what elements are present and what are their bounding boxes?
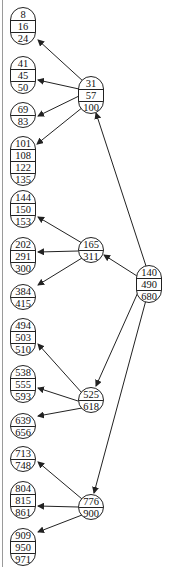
leaf-node-l6: 202291300 (10, 237, 36, 275)
edge-arrow-root-n1 (96, 113, 146, 266)
node-key: 41 (11, 58, 35, 69)
edge-arrow-n3-l8 (38, 344, 82, 393)
node-key: 618 (79, 400, 103, 412)
node-key: 140 (137, 267, 161, 278)
leaf-node-l9: 538555593 (10, 365, 36, 403)
node-key: 815 (11, 494, 35, 506)
edge-arrow-n3-l9 (38, 388, 78, 401)
node-key: 100 (79, 101, 103, 113)
node-key: 494 (11, 320, 35, 331)
edge-arrow-n3-l10 (38, 408, 82, 416)
edge-arrow-n2-l5 (38, 217, 82, 243)
node-key: 525 (79, 389, 103, 400)
node-key: 639 (11, 415, 35, 426)
node-key: 510 (11, 343, 35, 355)
node-key: 101 (11, 138, 35, 149)
node-key: 538 (11, 367, 35, 378)
edge-arrow-n2-l7 (38, 258, 82, 285)
node-key: 165 (79, 239, 103, 250)
node-key: 909 (11, 530, 35, 541)
leaf-node-l2: 414550 (10, 56, 36, 94)
node-key: 503 (11, 331, 35, 343)
leaf-node-l8: 494503510 (10, 318, 36, 356)
node-key: 748 (11, 459, 35, 471)
node-key: 24 (11, 32, 35, 44)
leaf-node-l1: 81624 (10, 7, 36, 45)
node-key: 108 (11, 149, 35, 161)
leaf-node-l7: 384415 (10, 284, 36, 310)
internal-node-n3: 525618 (78, 387, 104, 413)
node-key: 680 (137, 290, 161, 302)
edge-arrow-n4-l13 (38, 515, 82, 532)
node-key: 950 (11, 541, 35, 553)
node-key: 291 (11, 250, 35, 262)
internal-node-n4: 776900 (78, 494, 104, 520)
leaf-node-l10: 639656 (10, 413, 36, 439)
node-key: 8 (11, 9, 35, 20)
node-key: 31 (79, 78, 103, 89)
edge-arrow-n1-l4 (37, 107, 83, 144)
node-key: 144 (11, 192, 35, 203)
leaf-node-l4: 101108122135 (10, 136, 36, 186)
node-key: 713 (11, 448, 35, 459)
node-key: 16 (11, 20, 35, 32)
node-key: 57 (79, 89, 103, 101)
edge-arrow-n2-l6 (38, 251, 78, 252)
edge-arrow-n1-l1 (38, 40, 84, 82)
node-key: 45 (11, 69, 35, 81)
node-key: 69 (11, 104, 35, 115)
node-key: 50 (11, 81, 35, 93)
node-key: 202 (11, 239, 35, 250)
leaf-node-l3: 6983 (10, 102, 36, 128)
node-key: 150 (11, 203, 35, 215)
root-node-root: 140490680 (136, 265, 162, 303)
node-key: 900 (79, 507, 103, 519)
edge-arrow-root-n3 (96, 290, 139, 386)
node-key: 83 (11, 115, 35, 127)
leaf-node-l5: 144150153 (10, 190, 36, 228)
node-key: 593 (11, 390, 35, 402)
node-key: 490 (137, 278, 161, 290)
internal-node-n2: 165311 (78, 237, 104, 263)
edge-arrow-n4-l12 (38, 506, 78, 507)
node-key: 153 (11, 215, 35, 227)
node-key: 776 (79, 496, 103, 507)
leaf-node-l13: 909950971 (10, 528, 36, 566)
node-key: 555 (11, 378, 35, 390)
node-key: 384 (11, 286, 35, 297)
node-key: 971 (11, 553, 35, 565)
node-key: 861 (11, 506, 35, 518)
node-key: 122 (11, 161, 35, 173)
node-key: 656 (11, 426, 35, 438)
node-key: 415 (11, 297, 35, 309)
node-key: 135 (11, 173, 35, 185)
leaf-node-l11: 713748 (10, 446, 36, 472)
internal-node-n1: 3157100 (78, 76, 104, 114)
edge-arrow-n1-l3 (38, 96, 79, 116)
edge-arrow-n4-l11 (38, 462, 82, 499)
node-key: 311 (79, 250, 103, 262)
node-key: 804 (11, 483, 35, 494)
leaf-node-l12: 804815861 (10, 481, 36, 519)
edge-arrow-n1-l2 (38, 80, 79, 89)
node-key: 300 (11, 262, 35, 274)
edge-arrow-root-n2 (104, 255, 137, 276)
